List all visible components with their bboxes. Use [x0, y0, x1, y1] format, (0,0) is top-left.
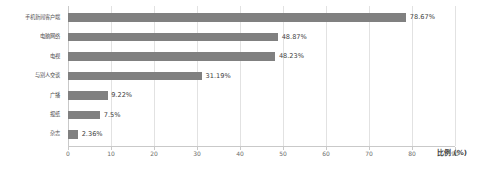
category-label: 与别人交谈: [0, 73, 63, 79]
bar-row[interactable]: 电脑网络48.87%: [0, 27, 479, 46]
x-axis-tick-label: 70: [365, 151, 373, 157]
bar-value-label: 7.5%: [104, 112, 121, 119]
bar-row[interactable]: 报纸7.5%: [0, 105, 479, 124]
bar-rows: 手机新闻客户端78.67%电脑网络48.87%电视48.23%与别人交谈31.1…: [0, 8, 479, 144]
category-label: 广播: [0, 93, 63, 99]
bar-row[interactable]: 电视48.23%: [0, 47, 479, 66]
category-label: 报纸: [0, 112, 63, 118]
bar[interactable]: [68, 111, 100, 120]
bar[interactable]: [68, 91, 108, 100]
category-label: 杂志: [0, 131, 63, 137]
category-label: 电脑网络: [0, 34, 63, 40]
bar-track: 48.87%: [68, 27, 455, 46]
bar[interactable]: [68, 33, 278, 42]
bar-track: 48.23%: [68, 47, 455, 66]
bar[interactable]: [68, 130, 78, 139]
bar-value-label: 48.87%: [282, 34, 307, 41]
bar-track: 78.67%: [68, 8, 455, 27]
bar-track: 7.5%: [68, 105, 455, 124]
bar-track: 31.19%: [68, 66, 455, 85]
bar-track: 9.22%: [68, 86, 455, 105]
bar[interactable]: [68, 13, 406, 22]
bar-row[interactable]: 手机新闻客户端78.67%: [0, 8, 479, 27]
horizontal-bar-chart: 手机新闻客户端78.67%电脑网络48.87%电视48.23%与别人交谈31.1…: [0, 0, 479, 173]
bar-row[interactable]: 杂志2.36%: [0, 125, 479, 144]
bar-value-label: 78.67%: [410, 14, 435, 21]
bar-value-label: 31.19%: [206, 73, 231, 80]
x-axis-tick-label: 30: [193, 151, 201, 157]
x-axis-tick-label: 60: [322, 151, 330, 157]
x-axis-tick-label: 80: [408, 151, 416, 157]
bar[interactable]: [68, 52, 275, 61]
bar-row[interactable]: 广播9.22%: [0, 86, 479, 105]
x-axis-tick-label: 10: [107, 151, 115, 157]
x-axis-tick-label: 40: [236, 151, 244, 157]
bar-value-label: 2.36%: [82, 131, 103, 138]
x-axis-ticks: 0102030405060708090: [0, 147, 479, 161]
x-axis-tick-label: 50: [279, 151, 287, 157]
x-axis-title: 比例 (%): [437, 150, 467, 157]
bar-row[interactable]: 与别人交谈31.19%: [0, 66, 479, 85]
category-label: 电视: [0, 54, 63, 60]
category-label: 手机新闻客户端: [0, 15, 63, 21]
bar[interactable]: [68, 72, 202, 81]
x-axis-tick-label: 0: [66, 151, 70, 157]
bar-value-label: 9.22%: [111, 92, 132, 99]
bar-track: 2.36%: [68, 125, 455, 144]
x-axis-tick-label: 20: [150, 151, 158, 157]
bar-value-label: 48.23%: [279, 53, 304, 60]
